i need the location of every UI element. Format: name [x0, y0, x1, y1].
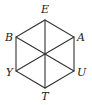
vertex-label-b: B	[4, 31, 13, 44]
vertex-label-t: T	[41, 90, 50, 103]
vertex-label-a: A	[76, 31, 85, 44]
vertex-label-u: U	[77, 66, 87, 79]
vertex-label-y: Y	[6, 66, 15, 79]
hexagon-diagram: E A U T Y B	[0, 0, 92, 105]
vertex-label-e: E	[40, 3, 49, 16]
